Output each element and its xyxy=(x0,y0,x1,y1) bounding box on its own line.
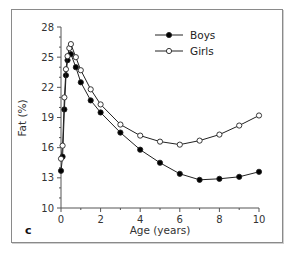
open-circle-marker xyxy=(157,139,162,144)
x-axis-title: Age (years) xyxy=(130,224,191,236)
y-tick-label: 13 xyxy=(41,172,54,183)
legend: BoysGirls xyxy=(155,29,215,57)
y-tick-label: 22 xyxy=(41,82,54,93)
filled-circle-marker xyxy=(177,171,182,176)
series-layer xyxy=(58,41,261,182)
open-circle-marker xyxy=(217,132,222,137)
series-boys xyxy=(58,52,261,183)
open-circle-marker xyxy=(98,102,103,107)
legend-item-boys: Boys xyxy=(155,29,215,41)
legend-label: Boys xyxy=(190,29,215,41)
filled-circle-marker xyxy=(78,80,83,85)
open-circle-marker xyxy=(237,123,242,128)
open-circle-marker xyxy=(197,138,202,143)
filled-circle-marker xyxy=(118,130,123,135)
open-circle-marker xyxy=(73,55,78,60)
line-chart: 101316192225280246810 BoysGirls Age (yea… xyxy=(0,0,293,255)
filled-circle-marker xyxy=(88,98,93,103)
open-circle-marker xyxy=(118,122,123,127)
filled-circle-marker xyxy=(197,177,202,182)
open-circle-marker xyxy=(62,95,67,100)
y-tick-label: 10 xyxy=(41,203,54,214)
y-tick-label: 25 xyxy=(41,52,54,63)
open-circle-marker xyxy=(166,48,171,53)
filled-circle-marker xyxy=(73,65,78,70)
y-tick-label: 16 xyxy=(41,142,54,153)
x-tick-label: 8 xyxy=(216,214,222,225)
open-circle-marker xyxy=(78,68,83,73)
filled-circle-marker xyxy=(217,176,222,181)
open-circle-marker xyxy=(256,113,261,118)
filled-circle-marker xyxy=(166,32,171,37)
axes: 101316192225280246810 xyxy=(41,22,265,226)
filled-circle-marker xyxy=(98,110,103,115)
legend-item-girls: Girls xyxy=(155,45,214,57)
open-circle-marker xyxy=(58,156,63,161)
x-tick-label: 0 xyxy=(58,214,64,225)
filled-circle-marker xyxy=(256,169,261,174)
x-tick-label: 10 xyxy=(253,214,266,225)
panel-label: c xyxy=(25,224,32,237)
open-circle-marker xyxy=(65,54,70,59)
filled-circle-marker xyxy=(157,160,162,165)
y-tick-label: 19 xyxy=(41,112,54,123)
y-tick-label: 28 xyxy=(41,22,54,33)
open-circle-marker xyxy=(138,133,143,138)
y-axis-title: Fat (%) xyxy=(16,99,28,136)
open-circle-marker xyxy=(60,143,65,148)
x-tick-label: 2 xyxy=(97,214,103,225)
open-circle-marker xyxy=(88,87,93,92)
filled-circle-marker xyxy=(58,168,63,173)
filled-circle-marker xyxy=(237,174,242,179)
filled-circle-marker xyxy=(138,147,143,152)
open-circle-marker xyxy=(63,67,68,72)
open-circle-marker xyxy=(68,41,73,46)
open-circle-marker xyxy=(177,142,182,147)
legend-label: Girls xyxy=(190,45,214,57)
